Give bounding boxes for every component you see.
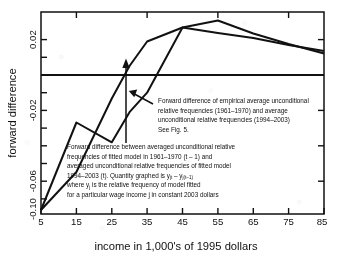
annotation-empirical-line-3: unconditional relative frequencies (1994…	[158, 116, 290, 124]
annotation-fitted-line-5-a: where y	[66, 181, 90, 189]
x-tick-label-0: 5	[38, 216, 43, 227]
x-tick-label-4: 45	[177, 216, 188, 227]
y-tick-label-0: 0.02	[27, 30, 38, 49]
y-tick-label-3: -0.10	[27, 198, 38, 220]
figure-forward-difference: 5 15 25 35 45 55 65 75 85 0.02 -0.02 -0.…	[0, 0, 340, 259]
annotation-fitted-line-2: frequencies of fitted model in 1961–1970…	[67, 153, 213, 161]
x-tick-label-5: 55	[213, 216, 224, 227]
annotation-fitted-sub-jt1: j(t–1)	[182, 175, 194, 180]
annotation-fitted-line-1: Forward difference between averaged unco…	[67, 143, 236, 151]
annotation-empirical-line-4: See Fig. 5.	[158, 126, 189, 134]
annotation-fitted-line-6: for a particular wage income j in consta…	[67, 191, 219, 199]
x-tick-label-8: 85	[317, 216, 328, 227]
y-tick-label-2: -0.06	[27, 170, 38, 192]
x-tick-label-1: 15	[71, 216, 82, 227]
annotation-empirical-line-1: Forward difference of empirical average …	[158, 97, 309, 105]
y-axis-title: forward difference	[6, 68, 18, 157]
annotation-fitted-line-3: averaged unconditional relative frequenc…	[67, 162, 231, 170]
annotation-empirical-line-2: relative frequencies (1961–1970) and ave…	[158, 107, 288, 115]
annotation-fitted-line-4-text: 1994–2003 (t). Quantity graphed is y	[67, 172, 171, 180]
y-tick-label-1: -0.02	[27, 99, 38, 121]
x-tick-label-6: 65	[248, 216, 259, 227]
x-tick-label-2: 25	[106, 216, 117, 227]
x-tick-label-7: 75	[283, 216, 294, 227]
x-tick-label-3: 35	[142, 216, 153, 227]
annotation-fitted-line-5-b: is the relative frequency of model fitte…	[90, 181, 201, 189]
x-axis-title: income in 1,000's of 1995 dollars	[94, 240, 258, 252]
